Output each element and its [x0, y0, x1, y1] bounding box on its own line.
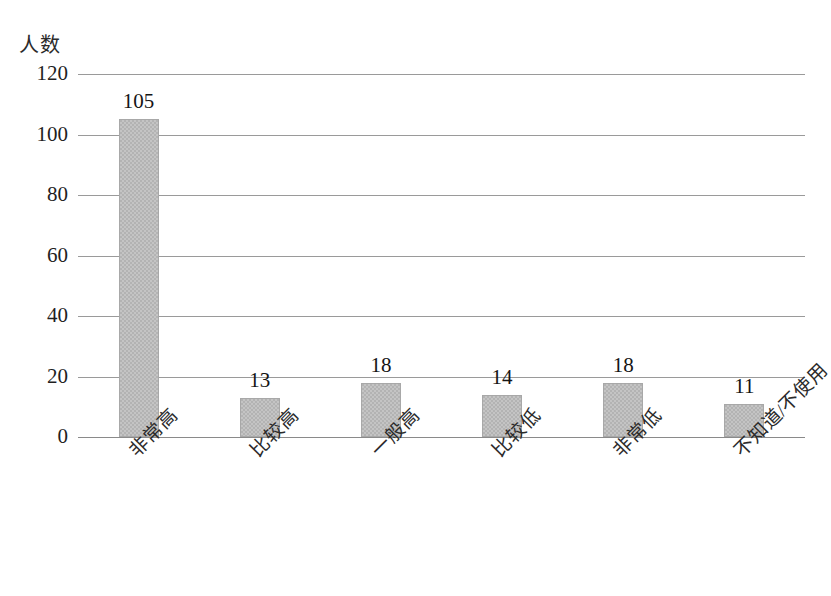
gridline	[78, 256, 805, 257]
bar-value-label: 18	[336, 355, 426, 376]
bar[interactable]	[119, 119, 159, 437]
gridline	[78, 74, 805, 75]
plot-area: 1051318141811	[78, 74, 805, 437]
y-axis-tick-label: 60	[10, 245, 68, 266]
x-axis-baseline	[78, 437, 805, 438]
gridline	[78, 316, 805, 317]
y-axis-tick-label: 40	[10, 305, 68, 326]
y-axis-tick-label: 120	[10, 63, 68, 84]
y-axis-tick-label: 100	[10, 124, 68, 145]
bar-value-label: 14	[457, 367, 547, 388]
bar-value-label: 18	[578, 355, 668, 376]
y-axis-tick-labels: 020406080100120	[0, 74, 68, 437]
gridline	[78, 135, 805, 136]
bar-value-label: 105	[94, 91, 184, 112]
gridline	[78, 195, 805, 196]
y-axis-tick-label: 80	[10, 184, 68, 205]
bar-chart: 人数 020406080100120 1051318141811 非常高比较高一…	[0, 0, 831, 596]
x-axis-category-labels: 非常高比较高一般高比较低非常低不知道/不使用	[78, 446, 805, 596]
bar-value-label: 13	[215, 370, 305, 391]
gridline	[78, 377, 805, 378]
y-axis-tick-label: 0	[10, 426, 68, 447]
y-axis-title: 人数	[19, 33, 61, 57]
y-axis-tick-label: 20	[10, 366, 68, 387]
bar-value-label: 11	[699, 376, 789, 397]
